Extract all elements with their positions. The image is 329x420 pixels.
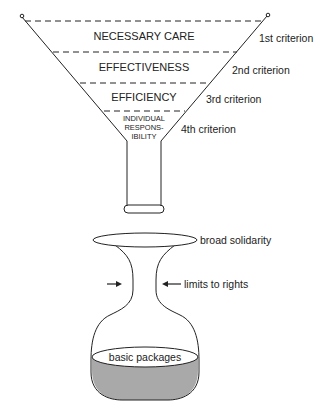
band-label-individual-2: RESPONS- xyxy=(124,123,164,132)
band-label-individual-1: INDIVIDUAL xyxy=(123,114,165,123)
broad-solidarity-label: broad solidarity xyxy=(200,234,272,246)
criterion-1: 1st criterion xyxy=(259,32,313,44)
neck-arrows xyxy=(107,281,181,287)
flask xyxy=(91,233,199,400)
funnel-flask-diagram: NECESSARY CARE EFFECTIVENESS EFFICIENCY … xyxy=(0,0,329,420)
criterion-3: 3rd criterion xyxy=(206,93,262,105)
band-label-individual-3: IBILITY xyxy=(131,132,156,141)
band-label-efficiency: EFFICIENCY xyxy=(111,91,177,103)
criterion-2: 2nd criterion xyxy=(232,64,290,76)
band-label-effectiveness: EFFECTIVENESS xyxy=(99,61,189,73)
basic-packages-label: basic packages xyxy=(109,351,181,363)
limits-to-rights-label: limits to rights xyxy=(184,278,248,290)
band-label-necessary-care: NECESSARY CARE xyxy=(93,30,194,42)
tube-rim xyxy=(124,205,164,213)
flask-mouth xyxy=(93,233,197,247)
funnel-right-tip xyxy=(266,13,270,17)
arrow-left-icon xyxy=(162,281,181,287)
arrow-right-icon xyxy=(107,281,122,287)
criterion-4: 4th criterion xyxy=(181,123,236,135)
